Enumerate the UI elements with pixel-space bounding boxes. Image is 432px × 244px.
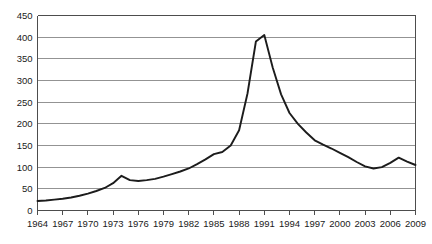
x-tick-label: 1967 [52,218,73,229]
y-tick-label: 450 [17,10,33,21]
x-tick-label: 1991 [254,218,275,229]
x-tick-label: 1964 [27,218,48,229]
x-tick-label: 2003 [355,218,376,229]
y-tick-label: 250 [17,97,33,108]
x-axis-tick-marks [38,211,416,215]
y-tick-label: 200 [17,118,33,129]
y-tick-label: 150 [17,140,33,151]
y-tick-label: 0 [27,205,32,216]
line-chart-svg: 050100150200250300350400450 196419671970… [0,0,432,244]
y-tick-label: 100 [17,162,33,173]
data-series [38,35,416,201]
x-tick-label: 1982 [178,218,199,229]
x-tick-label: 1985 [203,218,224,229]
data-line-1 [38,35,416,201]
y-tick-label: 400 [17,32,33,43]
y-tick-label: 300 [17,75,33,86]
x-tick-label: 1970 [77,218,98,229]
x-tick-label: 2006 [380,218,401,229]
x-tick-label: 1979 [153,218,174,229]
x-tick-label: 1988 [229,218,250,229]
y-tick-label: 350 [17,53,33,64]
chart-figure: 050100150200250300350400450 196419671970… [0,0,432,244]
x-tick-label: 1994 [279,218,300,229]
x-tick-label: 1973 [103,218,124,229]
x-tick-label: 2000 [329,218,350,229]
x-axis-tick-labels: 1964196719701973197619791982198519881991… [27,218,426,229]
y-tick-label: 50 [22,183,33,194]
plot-area-wrapper: 050100150200250300350400450 196419671970… [0,0,432,244]
y-axis-tick-labels: 050100150200250300350400450 [17,10,33,216]
x-tick-label: 2009 [405,218,426,229]
x-tick-label: 1976 [128,218,149,229]
x-tick-label: 1997 [304,218,325,229]
axis-lines [38,16,416,211]
